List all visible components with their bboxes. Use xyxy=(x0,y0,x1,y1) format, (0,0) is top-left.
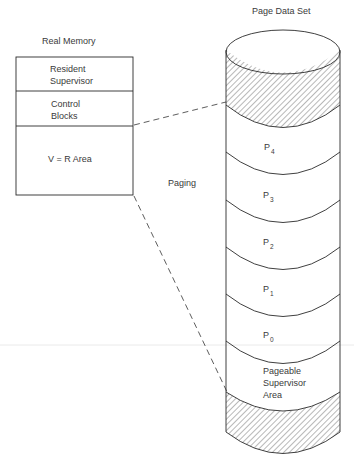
control-blocks-line1: Control xyxy=(51,99,80,109)
svg-text:P: P xyxy=(264,142,270,152)
svg-text:P: P xyxy=(263,330,269,340)
page-data-set-title: Page Data Set xyxy=(252,6,311,16)
svg-text:3: 3 xyxy=(270,196,274,203)
page-p0: P 0 xyxy=(263,330,274,343)
page-p3: P 3 xyxy=(263,190,274,203)
control-blocks-line2: Blocks xyxy=(51,111,78,121)
connector-lower xyxy=(134,196,228,394)
svg-text:P: P xyxy=(263,284,269,294)
svg-text:4: 4 xyxy=(271,148,275,155)
resident-supervisor-line1: Resident xyxy=(50,64,86,74)
svg-text:0: 0 xyxy=(270,336,274,343)
svg-text:P: P xyxy=(263,190,269,200)
svg-text:P: P xyxy=(263,237,269,247)
pageable-line1: Pageable xyxy=(263,366,301,376)
connector-upper xyxy=(134,102,226,125)
page-data-set-cylinder xyxy=(226,30,340,454)
pageable-line2: Supervisor xyxy=(263,378,306,388)
pageable-line3: Area xyxy=(263,390,282,400)
page-p1: P 1 xyxy=(263,284,274,297)
paging-label: Paging xyxy=(168,178,196,188)
resident-supervisor-line2: Supervisor xyxy=(50,76,93,86)
real-memory-title: Real Memory xyxy=(42,36,96,46)
page-p4: P 4 xyxy=(264,142,275,155)
svg-text:2: 2 xyxy=(270,243,274,250)
svg-text:1: 1 xyxy=(270,290,274,297)
paging-diagram: Real Memory Resident Supervisor Control … xyxy=(0,0,354,455)
v-equals-r-area: V = R Area xyxy=(48,154,92,164)
page-p2: P 2 xyxy=(263,237,274,250)
